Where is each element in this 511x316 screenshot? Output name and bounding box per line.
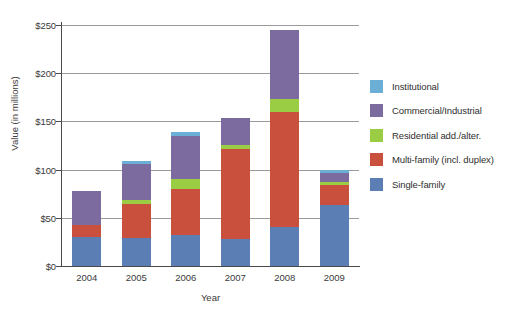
legend-item[interactable]: Multi-family (incl. duplex): [370, 148, 510, 172]
y-axis-tick-label: $250: [4, 20, 56, 31]
legend-item[interactable]: Commercial/Industrial: [370, 99, 510, 123]
legend-item[interactable]: Institutional: [370, 74, 510, 98]
x-axis-tick-label: 2008: [257, 272, 313, 283]
legend-color-swatch: [370, 80, 383, 93]
legend-color-swatch: [370, 153, 383, 166]
legend-color-swatch: [370, 129, 383, 142]
legend-label: Institutional: [392, 81, 439, 92]
y-axis-tick-label: $0: [4, 261, 56, 272]
x-axis-tick-label: 2005: [108, 272, 164, 283]
y-axis-title: Value (in millions): [9, 54, 20, 174]
legend-label: Residential add./alter.: [392, 130, 481, 141]
legend-label: Multi-family (incl. duplex): [392, 154, 494, 165]
x-axis-tick-label: 2007: [207, 272, 263, 283]
legend-color-swatch: [370, 178, 383, 191]
x-axis-tick-labels: 200420052006200720082009: [62, 0, 359, 316]
legend-label: Single-family: [392, 179, 445, 190]
x-axis-tick-label: 2004: [59, 272, 115, 283]
x-axis-title: Year: [62, 292, 359, 303]
legend-label: Commercial/Industrial: [392, 105, 482, 116]
chart-legend: InstitutionalCommercial/IndustrialReside…: [370, 74, 510, 197]
x-axis-tick-label: 2009: [306, 272, 362, 283]
legend-item[interactable]: Single-family: [370, 172, 510, 196]
stacked-bar-chart: $0$50$100$150$200$250 200420052006200720…: [0, 0, 511, 316]
legend-color-swatch: [370, 104, 383, 117]
y-axis-tick-label: $50: [4, 212, 56, 223]
legend-item[interactable]: Residential add./alter.: [370, 123, 510, 147]
x-axis-tick-label: 2006: [158, 272, 214, 283]
